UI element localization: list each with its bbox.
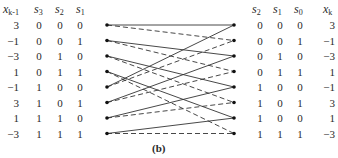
trellis-node-left bbox=[105, 85, 109, 89]
trellis-node-left bbox=[105, 23, 109, 27]
trellis-branch-dashed bbox=[107, 41, 234, 88]
trellis-branch-solid bbox=[107, 41, 234, 57]
trellis-node-left bbox=[105, 132, 109, 136]
trellis-branch-dashed bbox=[107, 103, 234, 119]
trellis-branch-solid bbox=[107, 56, 234, 87]
trellis-node-right bbox=[232, 39, 236, 43]
trellis-node-right bbox=[232, 85, 236, 89]
trellis-node-right bbox=[232, 132, 236, 136]
trellis-diagram bbox=[0, 0, 338, 158]
trellis-branch-solid bbox=[107, 25, 234, 87]
trellis-node-left bbox=[105, 70, 109, 74]
trellis-node-left bbox=[105, 116, 109, 120]
trellis-node-right bbox=[232, 70, 236, 74]
trellis-node-left bbox=[105, 101, 109, 105]
trellis-node-right bbox=[232, 101, 236, 105]
trellis-node-right bbox=[232, 23, 236, 27]
trellis-node-right bbox=[232, 54, 236, 58]
trellis-node-left bbox=[105, 54, 109, 58]
trellis-branch-dashed bbox=[107, 72, 234, 103]
figure-caption: (b) bbox=[152, 142, 165, 154]
trellis-branch-dashed bbox=[107, 25, 234, 41]
trellis-branch-solid bbox=[107, 87, 234, 118]
trellis-node-right bbox=[232, 116, 236, 120]
trellis-branch-solid bbox=[107, 118, 234, 134]
trellis-node-left bbox=[105, 39, 109, 43]
trellis-branch-solid bbox=[107, 72, 234, 119]
